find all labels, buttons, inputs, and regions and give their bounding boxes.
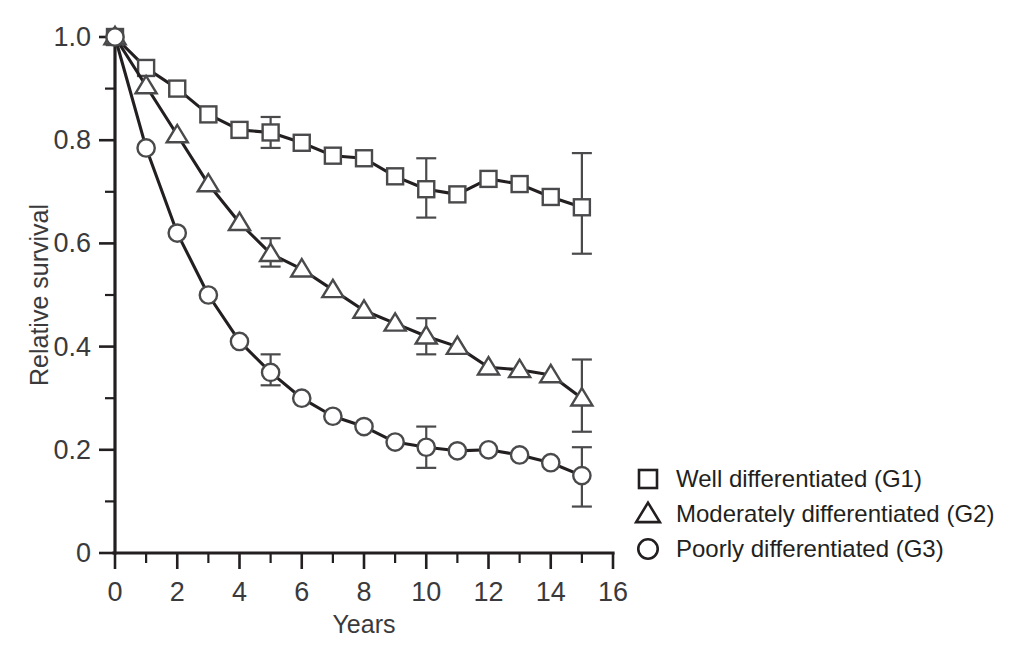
- data-point-square: [418, 181, 434, 197]
- x-tick-label: 6: [294, 577, 309, 607]
- x-tick-label: 16: [598, 577, 628, 607]
- data-point-circle: [418, 439, 435, 456]
- survival-chart-figure: 00.20.40.60.81.0 0246810121416 Relative …: [0, 0, 1025, 662]
- data-point-circle: [511, 446, 528, 463]
- y-axis-title: Relative survival: [25, 204, 53, 386]
- data-point-circle: [573, 467, 590, 484]
- x-axis-title: Years: [332, 610, 395, 638]
- data-point-square: [387, 168, 403, 184]
- data-point-square: [449, 186, 465, 202]
- x-tick-label: 10: [411, 577, 441, 607]
- y-tick-label: 0.6: [53, 228, 91, 258]
- data-point-circle: [386, 433, 403, 450]
- legend-item-triangle[interactable]: Moderately differentiated (G2): [636, 500, 994, 527]
- data-point-circle: [137, 139, 154, 156]
- data-point-circle: [262, 364, 279, 381]
- data-point-circle: [324, 408, 341, 425]
- data-point-circle: [200, 286, 217, 303]
- legend-label: Well differentiated (G1): [676, 465, 922, 492]
- legend-item-circle[interactable]: Poorly differentiated (G3): [638, 535, 943, 562]
- data-point-square: [574, 199, 590, 215]
- data-point-square: [200, 106, 216, 122]
- legend-marker-square: [639, 470, 657, 488]
- data-point-square: [325, 148, 341, 164]
- y-tick-label: 0.4: [53, 332, 91, 362]
- data-point-circle: [355, 418, 372, 435]
- data-point-circle: [293, 390, 310, 407]
- data-point-square: [138, 60, 154, 76]
- data-point-circle: [449, 442, 466, 459]
- x-tick-label: 4: [232, 577, 247, 607]
- data-point-square: [481, 171, 497, 187]
- data-point-square: [543, 189, 559, 205]
- x-tick-label: 12: [473, 577, 503, 607]
- data-point-square: [232, 122, 248, 138]
- legend-marker-circle: [638, 539, 657, 558]
- data-point-circle: [169, 224, 186, 241]
- relative-survival-line-chart: 00.20.40.60.81.0 0246810121416 Relative …: [0, 0, 1025, 662]
- x-tick-label: 2: [170, 577, 185, 607]
- y-tick-label: 0: [76, 538, 91, 568]
- legend-label: Poorly differentiated (G3): [676, 535, 944, 562]
- x-tick-label: 8: [356, 577, 371, 607]
- x-tick-label: 14: [536, 577, 566, 607]
- y-tick-label: 1.0: [53, 22, 91, 52]
- data-point-square: [356, 150, 372, 166]
- legend-label: Moderately differentiated (G2): [676, 500, 994, 527]
- data-point-square: [512, 176, 528, 192]
- data-point-circle: [542, 454, 559, 471]
- data-point-square: [263, 124, 279, 140]
- data-point-circle: [106, 28, 123, 45]
- data-point-circle: [231, 333, 248, 350]
- data-point-square: [169, 81, 185, 97]
- y-tick-label: 0.8: [53, 125, 91, 155]
- y-tick-label: 0.2: [53, 435, 91, 465]
- legend-item-square[interactable]: Well differentiated (G1): [639, 465, 922, 492]
- data-point-square: [294, 135, 310, 151]
- data-point-circle: [480, 441, 497, 458]
- x-tick-label: 0: [107, 577, 122, 607]
